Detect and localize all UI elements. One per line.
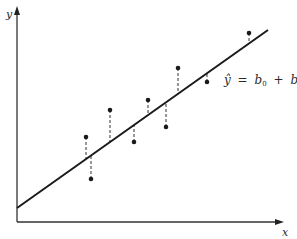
y-axis [14,6,20,222]
data-point [146,98,151,103]
regression-diagram: y x ŷ = b0 + b1x [0,0,297,239]
data-point [205,80,210,85]
x-axis [17,219,284,225]
y-axis-label: y [5,8,13,21]
regression-equation: ŷ = b0 + b1x [223,73,297,89]
data-point [108,108,113,113]
y-axis-arrow-icon [14,6,20,15]
x-axis-label: x [282,226,289,239]
regression-line [17,30,268,208]
residual-lines [86,33,249,179]
data-point [247,31,252,36]
data-point [176,66,181,71]
x-axis-arrow-icon [275,219,284,225]
data-point [132,140,137,145]
data-point [164,125,169,130]
data-point [89,177,94,182]
data-points [84,31,252,182]
data-point [84,135,89,140]
